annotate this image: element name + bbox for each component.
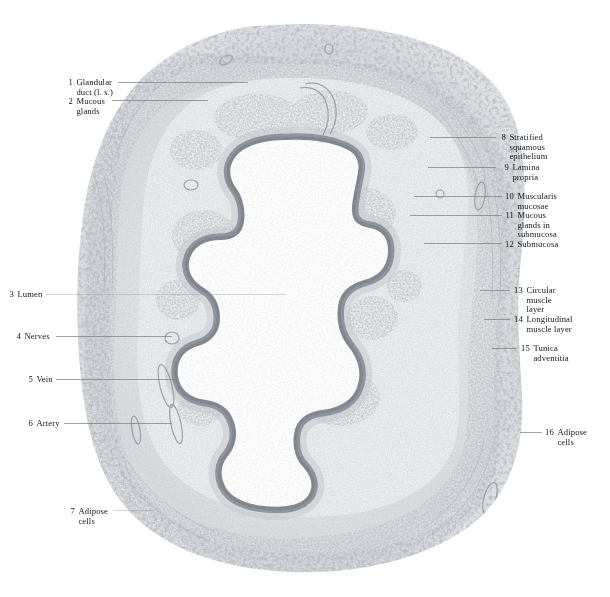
callout-text: Stratifiedsquamousepithelium [509, 133, 547, 162]
callout-label-3: 3Lumen [7, 290, 42, 300]
submucosa [100, 50, 520, 550]
callout-text: Lumen [17, 290, 42, 300]
callout-label-13: 13Circularmusclelayer [514, 286, 556, 315]
callout-text-line: epithelium [509, 152, 547, 162]
callout-number: 12 [505, 240, 514, 250]
callout-label-6: 6Artery [26, 419, 60, 429]
callout-text-line: propria [512, 173, 539, 183]
callout-label-4: 4Nerves [14, 332, 50, 342]
callout-text: Submucosa [517, 240, 558, 250]
callout-label-11: 11Mucousglands insubmucosa [505, 211, 557, 240]
callout-text: Vein [36, 375, 52, 385]
leader-line-8 [430, 137, 496, 138]
callout-text-line: glands [76, 107, 105, 117]
callout-number: 9 [500, 163, 509, 173]
callout-text: Nerves [24, 332, 49, 342]
leader-line-13 [480, 290, 510, 291]
histology-plate: 1Glandularduct (l. s.)2Mucousglands3Lume… [0, 0, 610, 597]
callout-number: 16 [545, 428, 554, 438]
callout-label-12: 12Submucosa [505, 240, 558, 250]
leader-line-12 [424, 243, 502, 244]
leader-line-16 [520, 432, 542, 433]
callout-label-8: 8Stratifiedsquamousepithelium [497, 133, 548, 162]
callout-label-15: 15Tunicaadventitia [521, 344, 569, 363]
stratified-squamous-epithelium [178, 140, 388, 507]
callout-text-line: Artery [36, 419, 59, 429]
callout-number: 14 [514, 315, 523, 325]
callout-label-7: 7Adiposecells [68, 507, 108, 526]
callout-text-line: cells [78, 517, 108, 527]
adipose-ring [77, 24, 524, 572]
leader-line-10 [414, 196, 502, 197]
mucous-glands [156, 90, 422, 468]
lumen [150, 120, 430, 520]
leader-line-6 [64, 423, 172, 424]
callout-label-2: 2Mucousglands [66, 97, 105, 116]
callout-number: 7 [68, 507, 75, 517]
callout-label-9: 9Laminapropria [500, 163, 540, 182]
callout-label-14: 14Longitudinalmuscle layer [514, 315, 573, 334]
callout-text-line: Submucosa [517, 240, 558, 250]
leader-line-1 [118, 82, 248, 83]
callout-text-line: muscle layer [526, 325, 572, 335]
leader-line-3 [46, 294, 286, 295]
callout-number: 6 [26, 419, 33, 429]
callout-label-10: 10Muscularismucosae [505, 192, 557, 211]
leader-line-14 [484, 319, 510, 320]
callout-text: Artery [36, 419, 59, 429]
callout-text-line: Vein [36, 375, 52, 385]
callout-number: 10 [505, 192, 514, 202]
callout-text: Adiposecells [78, 507, 108, 526]
callout-number: 13 [514, 286, 523, 296]
callout-number: 4 [14, 332, 21, 342]
callout-text-line: adventitia [533, 354, 568, 364]
leader-line-2 [112, 100, 208, 101]
leader-line-15 [492, 348, 516, 349]
callout-label-1: 1Glandularduct (l. s.) [66, 78, 113, 97]
vessels-and-nerves [130, 44, 516, 519]
callout-text: Circularmusclelayer [526, 286, 555, 315]
leader-line-4 [56, 336, 172, 337]
callout-number: 2 [66, 97, 73, 107]
leader-line-11 [410, 215, 502, 216]
callout-label-5: 5Vein [26, 375, 53, 385]
callout-label-16: 16Adiposecells [545, 428, 587, 447]
lamina-propria [178, 140, 388, 507]
callout-text: Mucousglands [76, 97, 105, 116]
callout-text: Laminapropria [512, 163, 539, 182]
muscularis-externa [84, 54, 509, 577]
tissue-section [60, 10, 560, 590]
callout-number: 15 [521, 344, 530, 354]
callout-number: 5 [26, 375, 33, 385]
callout-text: Longitudinalmuscle layer [526, 315, 572, 334]
callout-text: Adiposecells [557, 428, 587, 447]
callout-number: 1 [66, 78, 73, 88]
callout-text: Tunicaadventitia [533, 344, 568, 363]
callout-text-line: Nerves [24, 332, 49, 342]
callout-text-line: Lumen [17, 290, 42, 300]
callout-number: 8 [497, 133, 506, 143]
callout-number: 3 [7, 290, 14, 300]
callout-number: 11 [505, 211, 514, 221]
leader-line-9 [428, 167, 496, 168]
callout-text: Muscularismucosae [517, 192, 557, 211]
leader-line-7 [113, 510, 155, 511]
callout-text: Mucousglands insubmucosa [517, 211, 557, 240]
callout-text-line: cells [557, 438, 587, 448]
callout-text: Glandularduct (l. s.) [76, 78, 113, 97]
leader-line-5 [56, 379, 178, 380]
